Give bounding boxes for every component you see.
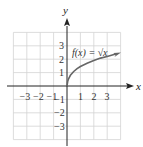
y-tick-label: −1: [54, 94, 65, 105]
x-tick-label: 1: [78, 91, 83, 102]
y-tick-label: 2: [59, 54, 64, 65]
x-tick-label: −2: [33, 91, 44, 102]
sqrt-curve: [67, 54, 117, 86]
x-axis-label: x: [135, 80, 141, 92]
y-axis-arrow-icon: [64, 18, 70, 26]
x-tick-label: 3: [105, 91, 110, 102]
function-label: f(x) = √x: [72, 47, 108, 59]
y-tick-label: −3: [54, 121, 65, 132]
y-tick-label: 3: [59, 40, 64, 51]
y-tick-label: 1: [59, 67, 64, 78]
y-tick-label: −2: [54, 107, 65, 118]
x-tick-label: −3: [20, 91, 31, 102]
x-tick-label: 2: [92, 91, 97, 102]
y-axis-label: y: [62, 4, 68, 16]
graph: x y −3 −2 −1 1 2 3 3 2 1 −1 −2 −3 f(x) =…: [0, 0, 143, 147]
